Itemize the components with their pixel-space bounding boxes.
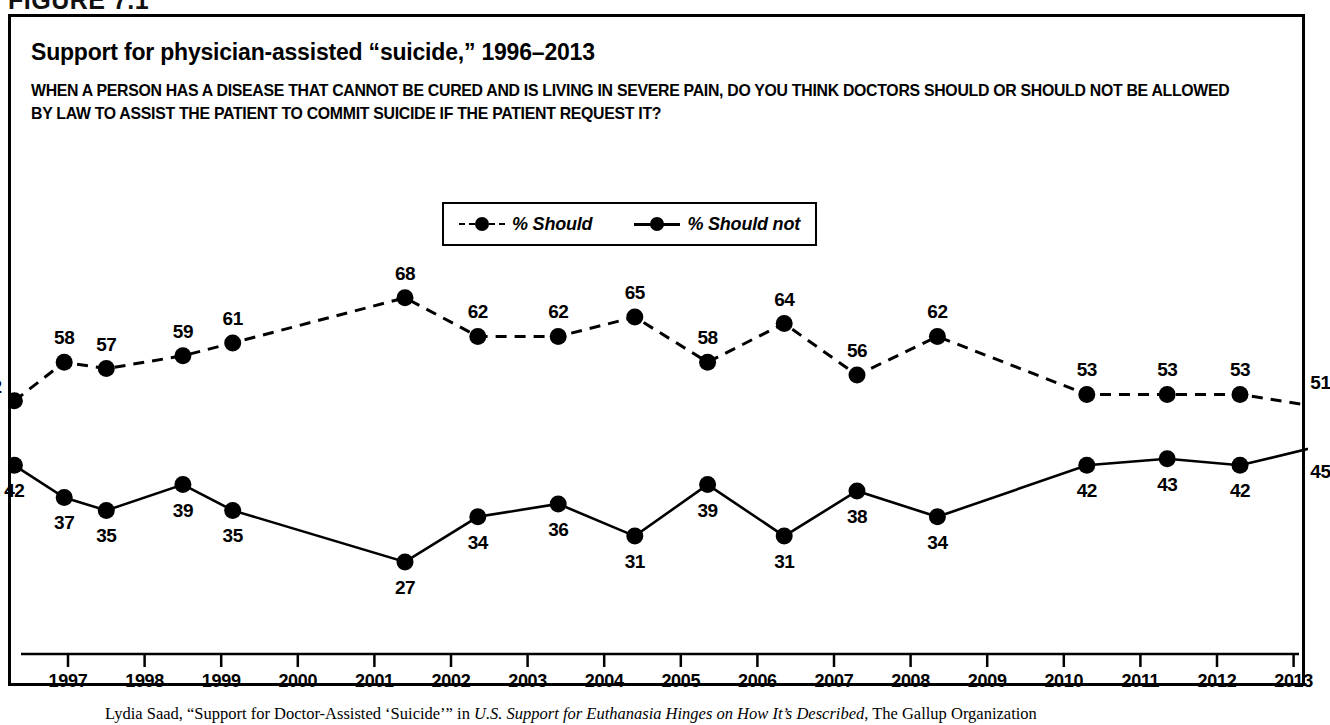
- data-point: [224, 334, 241, 351]
- data-point: [397, 553, 414, 570]
- data-point: [929, 508, 946, 525]
- data-point-label: 39: [698, 500, 718, 522]
- data-point: [849, 483, 866, 500]
- x-axis-tick-label: 2004: [585, 671, 624, 692]
- data-point: [11, 392, 23, 409]
- data-point: [1159, 450, 1176, 467]
- data-point: [224, 502, 241, 519]
- x-axis-tick-label: 2007: [815, 671, 854, 692]
- data-point: [849, 367, 866, 384]
- data-point: [469, 508, 486, 525]
- data-point-label: 62: [927, 301, 947, 323]
- x-axis-tick-label: 2005: [661, 671, 700, 692]
- source-italic-title: U.S. Support for Euthanasia Hinges on Ho…: [474, 704, 864, 723]
- data-point: [929, 328, 946, 345]
- x-axis-tick-label: 2003: [508, 671, 547, 692]
- data-point-label: 62: [468, 301, 488, 323]
- data-point-label: 34: [927, 532, 947, 554]
- data-point: [776, 315, 793, 332]
- data-point: [699, 476, 716, 493]
- x-axis-tick-label: 2012: [1198, 671, 1237, 692]
- data-point-label: 64: [774, 289, 794, 311]
- legend-label-should: % Should: [512, 214, 592, 235]
- data-point-label: 53: [1230, 359, 1250, 381]
- data-point: [550, 495, 567, 512]
- data-point-label: 68: [395, 263, 415, 285]
- legend-marker-solid-icon: [634, 217, 680, 231]
- data-point-label: 58: [54, 327, 74, 349]
- x-axis-tick-label: 2011: [1121, 671, 1159, 692]
- data-point-label: 65: [625, 282, 645, 304]
- data-point: [626, 309, 643, 326]
- data-point: [469, 328, 486, 345]
- x-axis-tick-label: 2010: [1044, 671, 1083, 692]
- chart-subtitle: WHEN A PERSON HAS A DISEASE THAT CANNOT …: [31, 79, 1231, 125]
- figure-box: Support for physician-assisted “suicide,…: [8, 14, 1305, 686]
- data-point-label: 53: [1077, 359, 1097, 381]
- data-point-label: 36: [548, 519, 568, 541]
- chart-legend: % Should % Should not: [442, 202, 817, 246]
- data-point-label: 35: [96, 525, 116, 547]
- x-axis-tick-label: 2002: [432, 671, 471, 692]
- data-point-label: 45: [1310, 461, 1330, 483]
- x-axis-tick-label: 2006: [738, 671, 777, 692]
- data-point-label: 31: [625, 551, 645, 573]
- data-point-label: 39: [173, 500, 193, 522]
- data-point-label: 38: [847, 506, 867, 528]
- data-point: [1232, 386, 1249, 403]
- data-point-label: 59: [173, 321, 193, 343]
- data-point: [776, 528, 793, 545]
- data-point-label: 42: [1230, 480, 1250, 502]
- x-axis-tick-label: 1998: [125, 671, 164, 692]
- data-point-label: 58: [698, 327, 718, 349]
- legend-label-should-not: % Should not: [687, 214, 800, 235]
- data-point: [174, 476, 191, 493]
- source-caption: Lydia Saad, “Support for Doctor-Assisted…: [105, 704, 1037, 724]
- x-axis-tick-label: 1999: [202, 671, 241, 692]
- x-axis-tick-label: 2008: [891, 671, 930, 692]
- data-point: [174, 347, 191, 364]
- data-point: [397, 289, 414, 306]
- data-point-label: 57: [96, 334, 116, 356]
- data-point-label: 31: [774, 551, 794, 573]
- legend-item-should-not: % Should not: [634, 214, 800, 235]
- data-point-label: 56: [847, 340, 867, 362]
- figure-number-label: FIGURE 7.1: [8, 0, 149, 15]
- data-point-label: 61: [223, 308, 243, 330]
- data-point: [1232, 457, 1249, 474]
- data-point-label: 27: [395, 577, 415, 599]
- chart-title: Support for physician-assisted “suicide,…: [31, 39, 595, 66]
- data-point: [56, 489, 73, 506]
- source-suffix: , The Gallup Organization: [864, 704, 1037, 723]
- data-point-label: 42: [1077, 480, 1097, 502]
- series-line-should: [14, 298, 1308, 408]
- data-point: [98, 502, 115, 519]
- x-axis-tick-label: 1997: [49, 671, 88, 692]
- data-point: [1078, 386, 1095, 403]
- data-point: [56, 354, 73, 371]
- data-point-label: 37: [54, 512, 74, 534]
- legend-marker-dashed-icon: [459, 217, 505, 231]
- data-point-label: 35: [223, 525, 243, 547]
- data-point-label: 52: [0, 376, 1, 398]
- data-point: [11, 457, 23, 474]
- data-point: [699, 354, 716, 371]
- data-point-label: 51: [1310, 372, 1330, 394]
- data-point-label: 53: [1157, 359, 1177, 381]
- x-axis-tick-label: 2009: [968, 671, 1007, 692]
- x-axis-tick-label: 2000: [278, 671, 317, 692]
- data-point-label: 62: [548, 301, 568, 323]
- source-prefix: Lydia Saad, “Support for Doctor-Assisted…: [105, 704, 474, 723]
- data-point-label: 42: [4, 480, 24, 502]
- x-axis-tick-label: 2001: [355, 671, 394, 692]
- data-point: [98, 360, 115, 377]
- data-point: [1159, 386, 1176, 403]
- data-point: [550, 328, 567, 345]
- x-axis-tick-label: 2013: [1274, 671, 1313, 692]
- data-point-label: 43: [1157, 474, 1177, 496]
- series-line-should-not: [14, 446, 1308, 562]
- data-point: [1078, 457, 1095, 474]
- legend-item-should: % Should: [459, 214, 592, 235]
- data-point-label: 34: [468, 532, 488, 554]
